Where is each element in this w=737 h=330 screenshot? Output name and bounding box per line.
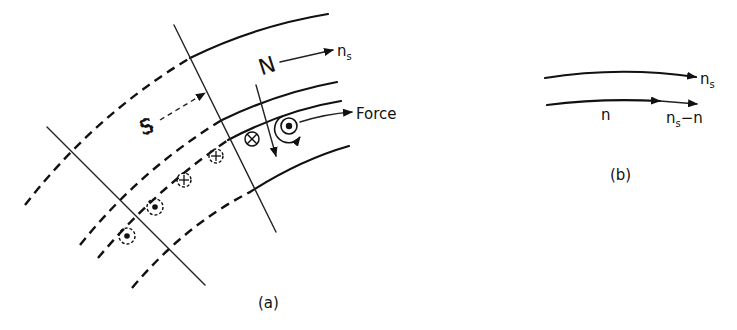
force-arrow: [300, 112, 352, 122]
slip-speed-label: ns−n: [666, 109, 703, 129]
south-pole-arrow: [160, 93, 205, 120]
induction-motor-diagram: N ns S Force: [0, 0, 737, 330]
rotor-outer-curve: [228, 101, 341, 140]
slip-speed-arrow: [660, 101, 697, 104]
conductor-cross-1: [245, 132, 259, 146]
figure-b: ns n ns−n (b): [545, 70, 715, 184]
stator-outer-curve: [190, 14, 328, 58]
stator-inner-curve-dashed: [80, 120, 222, 245]
rotor-inner-curve: [250, 146, 349, 192]
ns-label: ns: [337, 42, 352, 62]
conductor-cross-3: [177, 173, 191, 187]
figure-a: N ns S Force: [25, 14, 397, 312]
conductor-dot-2: [119, 228, 135, 244]
rotor-inner-curve-dashed: [132, 192, 250, 288]
figure-b-caption: (b): [610, 166, 631, 184]
stator-inner-curve: [222, 82, 337, 120]
field-speed-arrow: [545, 72, 696, 78]
south-pole-label: S: [136, 113, 156, 140]
rotor-speed-label: n: [601, 106, 611, 124]
radial-line-left: [47, 127, 205, 285]
conductor-cross-2: [209, 149, 223, 163]
force-label: Force: [356, 105, 397, 123]
conductor-dot-1: [147, 199, 163, 215]
rotor-speed-arrow: [547, 100, 660, 105]
north-pole-arrow: [280, 50, 333, 62]
stator-outer-curve-dashed: [25, 58, 190, 205]
north-pole-label: N: [255, 51, 278, 80]
conductor-dot-ringed: [275, 116, 300, 143]
figure-a-caption: (a): [258, 294, 279, 312]
field-speed-label: ns: [700, 70, 715, 90]
